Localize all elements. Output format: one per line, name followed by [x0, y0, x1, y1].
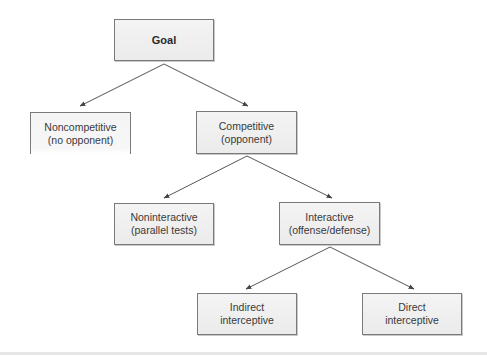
node-interactive-label-2: (offense/defense) [289, 224, 371, 237]
node-competitive: Competitive (opponent) [196, 111, 297, 154]
edge-competitive-noninteractive [164, 156, 247, 198]
node-direct-label-1: Direct [398, 301, 425, 314]
node-direct-interceptive: Direct interceptive [362, 293, 462, 335]
node-interactive: Interactive (offense/defense) [279, 202, 380, 245]
node-noncompetitive-label-1: Noncompetitive [44, 121, 116, 134]
edge-interactive-direct [330, 247, 414, 289]
node-indirect-label-2: interceptive [220, 314, 274, 327]
node-indirect-label-1: Indirect [230, 301, 264, 314]
node-noninteractive-label-1: Noninteractive [130, 211, 197, 224]
node-goal: Goal [114, 19, 214, 61]
node-goal-label: Goal [152, 34, 176, 47]
node-competitive-label-2: (opponent) [221, 133, 272, 146]
node-noncompetitive: Noncompetitive (no opponent) [30, 112, 131, 154]
bottom-divider [0, 352, 487, 355]
node-noninteractive: Noninteractive (parallel tests) [114, 203, 214, 245]
edge-goal-noncompetitive [80, 64, 164, 106]
node-indirect-interceptive: Indirect interceptive [197, 293, 297, 335]
edge-competitive-interactive [247, 156, 332, 198]
node-noncompetitive-label-2: (no opponent) [48, 134, 113, 147]
node-interactive-label-1: Interactive [305, 211, 353, 224]
node-competitive-label-1: Competitive [219, 120, 274, 133]
node-direct-label-2: interceptive [385, 314, 439, 327]
edge-goal-competitive [164, 64, 248, 106]
node-noninteractive-label-2: (parallel tests) [131, 224, 197, 237]
edge-interactive-indirect [246, 247, 330, 289]
